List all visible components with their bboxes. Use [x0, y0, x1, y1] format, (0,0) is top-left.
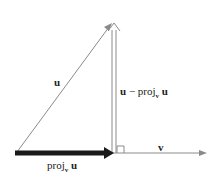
proj-label-u: u — [68, 159, 77, 171]
diff-label: u − projv u — [120, 86, 168, 97]
u-vector-line — [17, 27, 109, 152]
v-arrowhead-icon — [199, 150, 207, 156]
diff-label-u2: u — [159, 85, 168, 97]
right-angle-icon — [117, 146, 124, 153]
u-label: u — [54, 77, 60, 88]
proj-label-text: proj — [47, 159, 65, 171]
diff-label-sub: v — [156, 92, 160, 100]
projection-diagram — [0, 0, 209, 178]
v-label: v — [158, 142, 164, 153]
proj-label: projv u — [47, 160, 77, 171]
proj-label-sub: v — [65, 166, 69, 174]
diff-label-minus-proj: − proj — [126, 85, 155, 97]
